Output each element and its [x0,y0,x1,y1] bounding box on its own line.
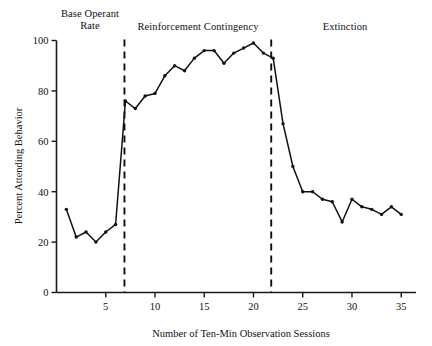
data-point [65,208,68,211]
y-tick-label: 20 [38,237,49,248]
data-point [94,240,97,243]
data-point [400,213,403,216]
data-point [321,198,324,201]
x-tick-label: 35 [396,301,407,312]
y-tick-label: 60 [38,136,49,147]
y-axis-title: Percent Attending Behavior [13,107,24,224]
data-point [262,51,265,54]
x-tick-label: 30 [347,301,358,312]
x-axis-ticks: 5101520253035 [103,293,406,312]
data-point [134,107,137,110]
x-tick-label: 5 [103,301,108,312]
data-series-line [66,43,401,242]
x-axis-title: Number of Ten-Min Observation Sessions [152,328,330,339]
data-point [143,94,146,97]
x-tick-label: 15 [199,301,210,312]
x-tick-label: 20 [248,301,259,312]
data-point [232,51,235,54]
data-point [340,220,343,223]
data-point [193,56,196,59]
data-point [114,223,117,226]
data-point [222,61,225,64]
data-point [281,122,284,125]
y-tick-label: 0 [43,287,48,298]
data-point [75,235,78,238]
data-point [301,190,304,193]
data-point [291,165,294,168]
y-tick-label: 100 [33,35,49,46]
data-point [271,56,274,59]
data-point [173,64,176,67]
y-axis-ticks: 020406080100 [33,35,57,298]
data-point [212,49,215,52]
data-point [350,198,353,201]
x-tick-label: 25 [297,301,308,312]
data-point [124,99,127,102]
y-tick-label: 80 [38,86,49,97]
data-point [203,49,206,52]
data-point [104,230,107,233]
data-point [331,200,334,203]
chart-figure: Base Operant Rate Reinforcement Continge… [0,0,432,346]
data-point [153,92,156,95]
data-point [84,230,87,233]
data-point [183,69,186,72]
y-tick-label: 40 [38,187,49,198]
data-point [163,74,166,77]
data-point [380,213,383,216]
data-point [311,190,314,193]
data-point [252,41,255,44]
data-point-markers [65,41,403,243]
data-point [370,208,373,211]
data-point [390,205,393,208]
phase-divider-lines [124,40,271,293]
x-tick-label: 10 [150,301,161,312]
data-point [242,46,245,49]
data-point [360,205,363,208]
line-chart-plot: 020406080100 5101520253035 Number of Ten… [0,0,432,346]
